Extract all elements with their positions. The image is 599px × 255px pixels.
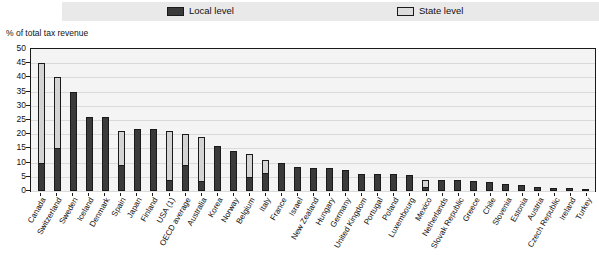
bar[interactable] (134, 129, 141, 191)
bar[interactable] (342, 170, 349, 191)
bar[interactable] (502, 184, 509, 191)
bar[interactable] (230, 151, 237, 191)
bar[interactable] (278, 163, 285, 191)
x-axis-slot: Sweden (64, 193, 80, 255)
bar-segment-local (182, 165, 189, 191)
bar[interactable] (374, 174, 381, 191)
bar-segment-state (182, 134, 189, 165)
bar-segment-local (118, 165, 125, 191)
bar[interactable] (214, 146, 221, 191)
bar[interactable] (150, 129, 157, 191)
bar[interactable] (246, 154, 253, 191)
bar-segment-local (374, 174, 381, 191)
y-axis-title: % of total tax revenue (6, 28, 88, 38)
bar[interactable] (582, 189, 589, 191)
bar-segment-local (214, 146, 221, 191)
x-axis-slot: France (273, 193, 289, 255)
bar-slot (545, 49, 561, 191)
bar[interactable] (470, 181, 477, 191)
bar[interactable] (182, 134, 189, 191)
x-axis-slot: Australia (193, 193, 209, 255)
x-axis-slot: Denmark (96, 193, 112, 255)
bar[interactable] (534, 187, 541, 191)
plot-area (30, 48, 596, 192)
bar[interactable] (422, 180, 429, 191)
bar-slot (353, 49, 369, 191)
bar-segment-state (246, 154, 253, 177)
x-axis-slot: Norway (225, 193, 241, 255)
bar-slot (305, 49, 321, 191)
bar[interactable] (118, 131, 125, 191)
bar-segment-local (470, 181, 477, 191)
bar-segment-local (70, 92, 77, 191)
x-axis-slot: Slovak Republic (450, 193, 466, 255)
bar-slot (529, 49, 545, 191)
bar-segment-state (54, 77, 61, 148)
y-axis-tick-label: 30 (17, 100, 26, 110)
bar-slot (225, 49, 241, 191)
bar-slot (33, 49, 49, 191)
bar-slot (129, 49, 145, 191)
bar[interactable] (406, 175, 413, 191)
bar[interactable] (566, 188, 573, 191)
x-axis-slot: Portugal (369, 193, 385, 255)
bar[interactable] (518, 185, 525, 191)
y-axis: 05101520253035404550 (0, 40, 30, 200)
bar[interactable] (166, 131, 173, 191)
bar-slot (433, 49, 449, 191)
bar[interactable] (438, 180, 445, 191)
bar-segment-local (278, 163, 285, 191)
x-axis-slot: Czech Republic (546, 193, 562, 255)
bar-segment-local (54, 148, 61, 191)
bar-segment-local (358, 174, 365, 191)
bar[interactable] (390, 174, 397, 191)
bar[interactable] (310, 168, 317, 191)
x-axis-labels: CanadaSwitzerlandSwedenIcelandDenmarkSpa… (30, 193, 596, 255)
x-axis-slot: Spain (112, 193, 128, 255)
bar-slot (385, 49, 401, 191)
bar-segment-state (166, 131, 173, 179)
y-axis-tick-label: 15 (17, 142, 26, 152)
bar[interactable] (102, 117, 109, 191)
legend-item-state-level: State level (397, 6, 463, 16)
bar[interactable] (54, 77, 61, 191)
bar-slot (401, 49, 417, 191)
bar-segment-local (150, 129, 157, 191)
bar-segment-local (38, 163, 45, 191)
bar-segment-local (390, 174, 397, 191)
bar[interactable] (86, 117, 93, 191)
bar-segment-local (454, 180, 461, 191)
bar-slot (209, 49, 225, 191)
legend-item-local-level: Local level (167, 6, 234, 16)
bar-segment-state (262, 160, 269, 173)
bar-slot (337, 49, 353, 191)
bar[interactable] (262, 160, 269, 191)
x-axis-slot: Turkey (578, 193, 594, 255)
bar-slot (193, 49, 209, 191)
bar-slot (497, 49, 513, 191)
bar[interactable] (454, 180, 461, 191)
x-axis-slot: Korea (209, 193, 225, 255)
bar-segment-local (438, 180, 445, 191)
bar-slot (513, 49, 529, 191)
bar[interactable] (70, 92, 77, 191)
bar[interactable] (38, 63, 45, 191)
bar-slot (65, 49, 81, 191)
bar[interactable] (486, 182, 493, 191)
gridline (31, 191, 595, 192)
bar-slot (177, 49, 193, 191)
y-axis-tick-label: 25 (17, 114, 26, 124)
bar[interactable] (326, 168, 333, 191)
bar[interactable] (294, 167, 301, 191)
bar[interactable] (550, 188, 557, 191)
x-axis-slot: Ireland (562, 193, 578, 255)
bar-segment-local (326, 168, 333, 191)
y-axis-tick-label: 45 (17, 57, 26, 67)
bar-slot (481, 49, 497, 191)
bar-slot (449, 49, 465, 191)
x-axis-tick-label: Italy (258, 196, 273, 213)
bar-segment-state (422, 180, 429, 187)
bar[interactable] (358, 174, 365, 191)
bar-segment-state (118, 131, 125, 165)
bar[interactable] (198, 137, 205, 191)
